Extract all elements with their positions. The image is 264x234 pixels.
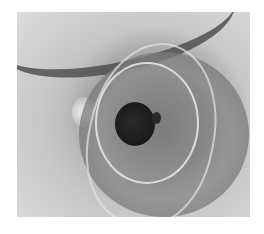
eye-photograph [17, 12, 250, 217]
iris-spot [152, 112, 161, 124]
pupil [115, 102, 155, 146]
